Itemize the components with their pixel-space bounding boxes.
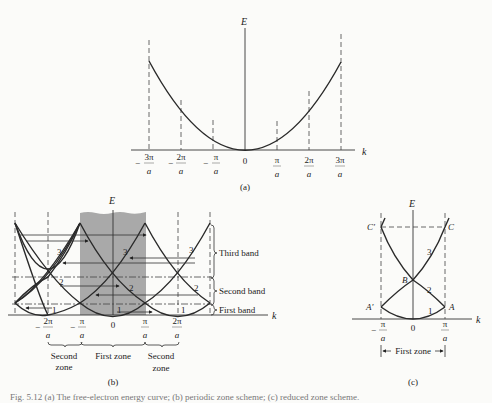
k-axis-label: k bbox=[272, 310, 277, 321]
svg-text:a: a bbox=[46, 330, 51, 340]
figure-canvas: k E − 3π a − 2π a − bbox=[0, 0, 492, 403]
svg-text:a: a bbox=[443, 333, 448, 343]
e-axis-label: E bbox=[108, 195, 115, 206]
svg-text:a: a bbox=[275, 169, 280, 179]
tick-labels-a: − 3π a − 2π a − π a 0 π bbox=[135, 152, 345, 179]
svg-text:a: a bbox=[80, 330, 85, 340]
tick-labels-c: − π a 0 π a bbox=[371, 319, 449, 343]
svg-text:π: π bbox=[143, 316, 148, 326]
svg-text:2π: 2π bbox=[172, 316, 182, 326]
svg-text:π: π bbox=[214, 152, 219, 162]
k-axis-label: k bbox=[476, 314, 481, 325]
svg-text:2: 2 bbox=[194, 283, 199, 293]
svg-text:π: π bbox=[443, 319, 448, 329]
svg-text:3π: 3π bbox=[144, 152, 154, 162]
svg-text:zone: zone bbox=[56, 362, 73, 372]
first-zone-label: First zone bbox=[395, 346, 431, 356]
svg-text:a: a bbox=[214, 166, 219, 176]
first-zone-label: First zone bbox=[95, 351, 131, 361]
e-axis-label: E bbox=[240, 16, 247, 27]
svg-text:−: − bbox=[371, 325, 376, 335]
svg-text:a: a bbox=[147, 166, 152, 176]
svg-text:2: 2 bbox=[59, 277, 64, 287]
svg-text:3π: 3π bbox=[335, 155, 345, 165]
second-zone-right-label: Second bbox=[148, 351, 175, 361]
first-band-label: First band bbox=[219, 305, 256, 315]
svg-text:−: − bbox=[203, 158, 208, 168]
svg-text:0: 0 bbox=[411, 323, 416, 333]
panel-a-label: (a) bbox=[240, 182, 250, 192]
svg-text:a: a bbox=[381, 333, 386, 343]
panel-b: k E bbox=[8, 195, 277, 387]
panel-c: k E C′ C B A′ A 1 2 3 − π bbox=[352, 198, 481, 387]
second-band-label: Second band bbox=[219, 286, 266, 296]
svg-text:a: a bbox=[175, 330, 180, 340]
svg-text:2π: 2π bbox=[43, 316, 53, 326]
svg-text:3: 3 bbox=[427, 247, 432, 257]
figure-caption: Fig. 5.12 (a) The free-electron energy c… bbox=[10, 392, 490, 403]
svg-text:2π: 2π bbox=[304, 155, 314, 165]
svg-text:3: 3 bbox=[57, 247, 62, 257]
panel-c-label: (c) bbox=[408, 377, 418, 387]
second-zone-left-label: Second bbox=[51, 351, 78, 361]
svg-text:0: 0 bbox=[243, 156, 248, 166]
first-zone-span: First zone bbox=[381, 345, 445, 357]
svg-text:A: A bbox=[448, 302, 455, 312]
svg-text:C′: C′ bbox=[367, 222, 376, 232]
svg-text:a: a bbox=[307, 169, 312, 179]
svg-text:2π: 2π bbox=[176, 152, 186, 162]
svg-text:−: − bbox=[168, 158, 173, 168]
svg-text:zone: zone bbox=[153, 363, 170, 373]
panel-b-label: (b) bbox=[108, 377, 119, 387]
svg-text:a: a bbox=[338, 169, 343, 179]
zone-braces: Second zone First zone Second zone bbox=[48, 342, 179, 373]
svg-text:A′: A′ bbox=[365, 302, 374, 312]
svg-text:3: 3 bbox=[123, 247, 128, 257]
svg-text:1: 1 bbox=[181, 305, 186, 315]
svg-text:2: 2 bbox=[427, 285, 432, 295]
svg-text:a: a bbox=[179, 166, 184, 176]
svg-text:−: − bbox=[135, 158, 140, 168]
e-axis-label: E bbox=[408, 198, 415, 209]
svg-text:1: 1 bbox=[428, 306, 433, 316]
svg-text:π: π bbox=[381, 319, 386, 329]
svg-text:0: 0 bbox=[111, 320, 116, 330]
band-braces: Third band Second band First band bbox=[211, 225, 266, 315]
panel-a: k E − 3π a − 2π a − bbox=[131, 16, 367, 192]
svg-text:−: − bbox=[35, 322, 40, 332]
band-2-left bbox=[381, 280, 413, 307]
svg-text:3: 3 bbox=[189, 245, 194, 255]
svg-text:π: π bbox=[275, 155, 280, 165]
svg-text:B: B bbox=[402, 275, 408, 285]
svg-text:2: 2 bbox=[129, 283, 134, 293]
svg-text:π: π bbox=[80, 316, 85, 326]
svg-text:1: 1 bbox=[52, 305, 57, 315]
third-band-label: Third band bbox=[219, 248, 259, 258]
k-axis-label: k bbox=[362, 146, 367, 157]
svg-text:1: 1 bbox=[117, 305, 122, 315]
svg-text:a: a bbox=[143, 330, 148, 340]
tick-labels-b: − 2π a − π a 0 π a 2π a bbox=[35, 316, 182, 340]
svg-text:C: C bbox=[448, 222, 455, 232]
svg-text:−: − bbox=[70, 322, 75, 332]
